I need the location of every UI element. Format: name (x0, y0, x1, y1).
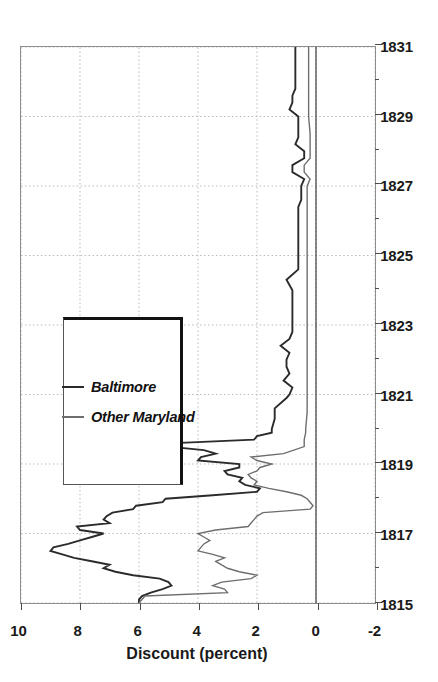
legend-line-icon-baltimore (62, 386, 84, 388)
y-tick-label: 0 (295, 622, 335, 639)
y-tick-major (21, 603, 22, 610)
x-tick-label: 1831 (372, 38, 422, 55)
x-tick-label: 1827 (372, 177, 422, 194)
x-tick-minor (375, 428, 379, 429)
figure-canvas: Baltimore Other Maryland 181518171819182… (0, 0, 438, 682)
legend-entries: Baltimore Other Maryland (62, 372, 182, 432)
y-tick-label: 8 (58, 622, 98, 639)
y-tick-label: 6 (117, 622, 157, 639)
x-tick-label: 1817 (372, 526, 422, 543)
x-tick-label: 1823 (372, 317, 422, 334)
legend-entry-other-maryland: Other Maryland (62, 409, 182, 425)
x-tick-label: 1829 (372, 107, 422, 124)
y-tick-major (140, 603, 141, 610)
y-tick-label: 10 (0, 622, 39, 639)
y-tick-major (80, 603, 81, 610)
x-tick-minor (375, 288, 379, 289)
y-tick-label: 4 (177, 622, 217, 639)
x-tick-minor (375, 358, 379, 359)
legend-entry-baltimore: Baltimore (62, 379, 182, 395)
x-tick-label: 1815 (372, 596, 422, 613)
x-tick-minor (375, 79, 379, 80)
x-tick-minor (375, 149, 379, 150)
legend-inner: Baltimore Other Maryland (40, 344, 204, 460)
legend-label-other-maryland: Other Maryland (91, 409, 195, 425)
y-tick-major (258, 603, 259, 610)
legend-line-icon-other-maryland (62, 416, 84, 418)
x-tick-minor (375, 218, 379, 219)
x-tick-minor (375, 567, 379, 568)
y-tick-major (199, 603, 200, 610)
x-tick-label: 1821 (372, 386, 422, 403)
y-tick-label: 2 (236, 622, 276, 639)
y-axis-title: Discount (percent) (97, 645, 297, 663)
x-tick-label: 1825 (372, 247, 422, 264)
y-tick-major (318, 603, 319, 610)
x-tick-minor (375, 497, 379, 498)
legend: Baltimore Other Maryland (63, 317, 183, 485)
y-tick-label: -2 (355, 622, 395, 639)
legend-label-baltimore: Baltimore (91, 379, 156, 395)
x-tick-label: 1819 (372, 456, 422, 473)
plot-area: Baltimore Other Maryland (20, 46, 376, 604)
chart-rotor: Baltimore Other Maryland 181518171819182… (0, 0, 438, 682)
